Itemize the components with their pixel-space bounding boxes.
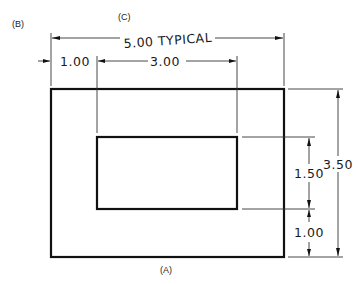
- dimension-inner-width: 3.00: [98, 54, 236, 69]
- arrowhead-icon: [229, 59, 236, 63]
- outer-rectangle: [51, 89, 284, 257]
- arrowhead-icon: [307, 210, 311, 217]
- dim-label-left-margin: 1.00: [60, 54, 90, 69]
- dim-label-inner-width: 3.00: [150, 54, 180, 69]
- dim-label-overall-height: 3.50: [323, 157, 353, 172]
- arrowhead-icon: [307, 200, 311, 208]
- dim-label-inner-height: 1.50: [294, 166, 324, 181]
- arrowhead-icon: [98, 59, 105, 63]
- panel-label-c: (C): [118, 12, 131, 22]
- arrowhead-icon: [43, 59, 50, 63]
- dimension-bottom-margin: 1.00: [294, 210, 324, 256]
- arrowhead-icon: [307, 249, 311, 256]
- dimension-overall-width: 5.00 TYPICAL: [52, 30, 283, 51]
- dimension-overall-height: 3.50: [323, 90, 353, 256]
- dim-label-overall-width: 5.00 TYPICAL: [123, 30, 212, 51]
- technical-drawing: (B) (C) (A) 5.00 TYPICAL 1.00 3.00: [0, 0, 364, 284]
- dim-label-bottom-margin: 1.00: [294, 225, 324, 240]
- inner-rectangle: [97, 137, 237, 209]
- arrowhead-icon: [307, 138, 311, 146]
- arrowhead-icon: [275, 36, 283, 40]
- arrowhead-icon: [336, 90, 340, 98]
- panel-label-a: (A): [160, 265, 172, 275]
- arrowhead-icon: [336, 248, 340, 256]
- dimension-left-margin: 1.00: [38, 54, 90, 69]
- panel-label-b: (B): [12, 19, 24, 29]
- arrowhead-icon: [52, 36, 60, 40]
- dimension-inner-height: 1.50: [294, 138, 324, 208]
